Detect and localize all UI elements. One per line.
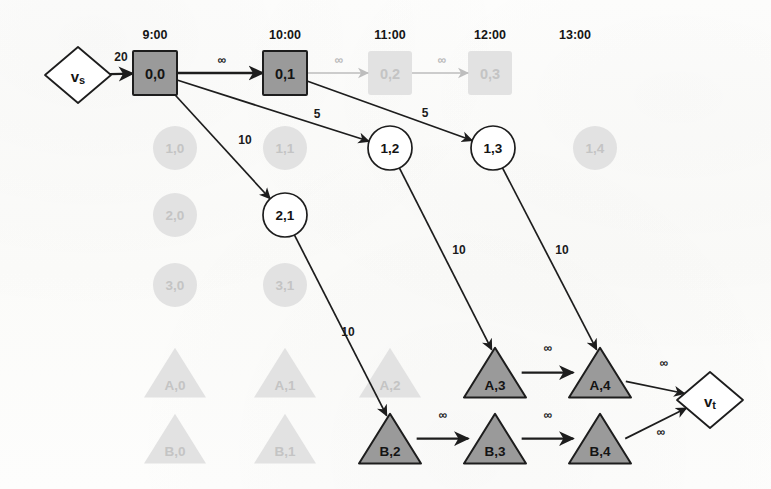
node-label: 1,0 xyxy=(166,141,185,156)
node-label: B,4 xyxy=(589,444,611,459)
node-label: 1,1 xyxy=(276,141,295,156)
node-label: 0,2 xyxy=(380,66,400,82)
node-1-4[interactable]: 1,4 xyxy=(573,126,617,170)
edge-label-21-B2: 10 xyxy=(341,325,355,339)
edge-label-A3-A4: ∞ xyxy=(544,341,553,355)
edge-label-01-13: 5 xyxy=(422,106,429,120)
node-label: 0,3 xyxy=(480,66,500,82)
node-A-0[interactable]: A,0 xyxy=(144,348,206,398)
edge-label-B4-vt: ∞ xyxy=(657,425,666,439)
node-label: 0,1 xyxy=(275,66,295,82)
node-label: A,2 xyxy=(379,378,400,393)
node-label: A,4 xyxy=(589,378,611,393)
node-label: 1,2 xyxy=(381,141,400,156)
time-expanded-network-graph: 0,20,31,01,11,42,03,03,1A,0A,1A,2B,0B,1 … xyxy=(0,0,771,489)
node-B-2[interactable]: B,2 xyxy=(359,414,421,464)
edge-label-00-01: ∞ xyxy=(218,53,227,67)
node-label: 2,1 xyxy=(276,208,295,223)
time-axis-layer: 9:0010:0011:0012:0013:00 xyxy=(142,28,591,42)
node-B-4[interactable]: B,4 xyxy=(569,414,631,464)
node-1-1[interactable]: 1,1 xyxy=(263,126,307,170)
node-B-1[interactable]: B,1 xyxy=(254,414,316,464)
node-vs[interactable]: vs xyxy=(45,47,111,103)
node-2-1[interactable]: 2,1 xyxy=(263,193,307,237)
edge-label-B3-B4: ∞ xyxy=(544,408,553,422)
node-A-4[interactable]: A,4 xyxy=(569,348,631,398)
edge-label-00-21: 10 xyxy=(238,133,252,147)
node-0-1[interactable]: 0,1 xyxy=(263,51,307,95)
time-label-11-00: 11:00 xyxy=(374,28,405,42)
node-1-2[interactable]: 1,2 xyxy=(368,126,412,170)
edge-label-13-A4: 10 xyxy=(555,243,569,257)
node-B-0[interactable]: B,0 xyxy=(144,414,206,464)
node-0-3[interactable]: 0,3 xyxy=(468,51,512,95)
node-label: 3,1 xyxy=(276,278,295,293)
node-3-1[interactable]: 3,1 xyxy=(263,263,307,307)
node-1-3[interactable]: 1,3 xyxy=(471,126,515,170)
time-label-9-00: 9:00 xyxy=(142,28,167,42)
edge-label-B2-B3: ∞ xyxy=(439,408,448,422)
time-label-10-00: 10:00 xyxy=(269,28,301,42)
node-label: 2,0 xyxy=(166,208,185,223)
edge-label-01-02: ∞ xyxy=(335,53,344,67)
node-B-3[interactable]: B,3 xyxy=(464,414,526,464)
node-label: B,3 xyxy=(484,444,506,459)
edge-label-02-03: ∞ xyxy=(438,53,447,67)
node-label: A,1 xyxy=(274,378,296,393)
node-label: 0,0 xyxy=(145,66,165,82)
node-vt[interactable]: vt xyxy=(677,372,743,428)
node-label: 1,3 xyxy=(484,141,503,156)
node-label: A,0 xyxy=(164,378,185,393)
edge-label-12-A3: 10 xyxy=(452,243,466,257)
node-A-3[interactable]: A,3 xyxy=(464,348,526,398)
diagram-canvas: 0,20,31,01,11,42,03,03,1A,0A,1A,2B,0B,1 … xyxy=(0,0,771,489)
edge-vs-00[interactable] xyxy=(110,74,133,75)
node-label: A,3 xyxy=(484,378,506,393)
node-label: B,0 xyxy=(164,444,185,459)
edge-13-A4[interactable] xyxy=(502,168,596,350)
node-0-2[interactable]: 0,2 xyxy=(368,51,412,95)
active-node-layer: 0,00,11,21,32,1A,3A,4B,2B,3B,4vsvt xyxy=(45,47,743,463)
node-label: B,1 xyxy=(274,444,296,459)
node-0-0[interactable]: 0,0 xyxy=(133,51,177,95)
edge-label-A4-vt: ∞ xyxy=(660,356,669,370)
node-label: 1,4 xyxy=(586,141,605,156)
node-label: 3,0 xyxy=(166,278,185,293)
node-3-0[interactable]: 3,0 xyxy=(153,263,197,307)
node-A-2[interactable]: A,2 xyxy=(359,348,421,398)
ghost-node-layer: 0,20,31,01,11,42,03,03,1A,0A,1A,2B,0B,1 xyxy=(144,51,617,463)
edge-A4-vt[interactable] xyxy=(626,381,685,393)
time-label-13-00: 13:00 xyxy=(559,28,591,42)
node-1-0[interactable]: 1,0 xyxy=(153,126,197,170)
edge-12-A3[interactable] xyxy=(399,168,491,350)
time-label-12-00: 12:00 xyxy=(474,28,506,42)
node-A-1[interactable]: A,1 xyxy=(254,348,316,398)
edge-label-vs-00: 20 xyxy=(114,50,128,64)
edge-label-00-12: 5 xyxy=(314,107,321,121)
node-2-0[interactable]: 2,0 xyxy=(153,193,197,237)
node-label: B,2 xyxy=(379,444,400,459)
